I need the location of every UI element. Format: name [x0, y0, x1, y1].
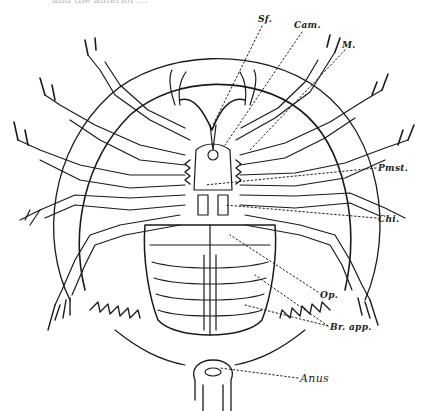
figure: and the anterior ...: [0, 0, 428, 411]
label-sf: Sf.: [258, 14, 272, 24]
limulus-drawing: [0, 0, 428, 411]
label-chi: Chi.: [378, 214, 399, 224]
legs-left: [14, 38, 190, 330]
legs-right: [236, 35, 414, 325]
label-br-app: Br. app.: [330, 322, 372, 332]
label-pmst: Pmst.: [378, 163, 408, 173]
carapace-outline: [54, 59, 380, 300]
label-cam: Cam.: [294, 20, 321, 30]
label-anus: Anus: [300, 372, 329, 385]
label-op: Op.: [320, 290, 338, 300]
label-m: M.: [342, 40, 356, 50]
